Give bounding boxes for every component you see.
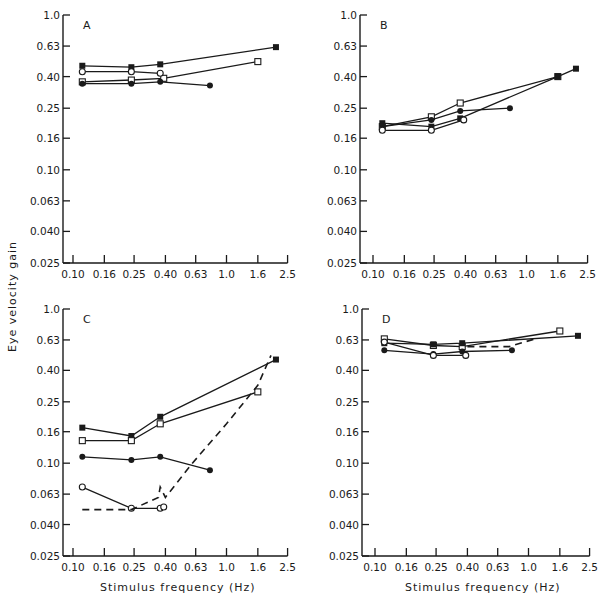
y-tick-label: 0.025 — [30, 257, 60, 269]
marker-filled-square — [79, 425, 85, 431]
panel-a: 1.00.630.400.250.160.100.0630.0400.0250.… — [30, 9, 296, 280]
x-tick-label: 2.5 — [581, 561, 598, 573]
marker-filled-square — [555, 74, 561, 80]
x-tick-label: 0.10 — [361, 268, 384, 280]
x-tick-label: 2.5 — [279, 561, 296, 573]
y-tick-label: 0.40 — [37, 364, 60, 376]
y-tick-label: 0.63 — [37, 40, 60, 52]
x-tick-label: 0.25 — [122, 561, 145, 573]
marker-open-square — [157, 421, 163, 427]
y-tick-label: 0.16 — [336, 426, 360, 438]
marker-open-circle — [157, 70, 163, 76]
series-line — [82, 72, 160, 74]
marker-open-square — [255, 59, 261, 65]
y-tick-label: 0.63 — [37, 334, 60, 346]
marker-open-circle — [430, 352, 436, 358]
marker-filled-square — [157, 414, 163, 420]
x-tick-label: 1.6 — [549, 268, 566, 280]
marker-filled-square — [79, 63, 85, 69]
series-open-circle — [79, 484, 166, 511]
x-tick-label: 0.63 — [486, 561, 509, 573]
marker-filled-square — [575, 333, 581, 339]
x-tick-label: 0.63 — [184, 561, 207, 573]
y-tick-label: 1.0 — [43, 303, 60, 315]
marker-open-square — [557, 328, 563, 334]
x-tick-label: 0.40 — [454, 268, 477, 280]
marker-filled-square — [459, 340, 465, 346]
y-tick-label: 0.25 — [336, 396, 359, 408]
marker-open-circle — [128, 69, 134, 75]
x-tick-label: 0.10 — [61, 561, 84, 573]
x-tick-label: 0.63 — [184, 268, 207, 280]
y-tick-label: 0.10 — [334, 164, 357, 176]
y-tick-label: 1.0 — [43, 9, 60, 21]
series-filled-square-1 — [79, 44, 279, 70]
x-tick-label: 1.0 — [520, 561, 537, 573]
x-tick-label: 0.40 — [154, 268, 177, 280]
series-line — [82, 82, 210, 86]
series-open-square — [379, 74, 561, 130]
y-tick-label: 1.0 — [342, 303, 359, 315]
marker-filled-circle — [79, 81, 85, 87]
series-line — [382, 77, 558, 127]
x-tick-label: 0.25 — [422, 268, 445, 280]
marker-open-circle — [381, 339, 387, 345]
y-tick-label: 0.040 — [30, 225, 60, 237]
marker-open-circle — [463, 352, 469, 358]
x-tick-label: 0.25 — [424, 561, 447, 573]
y-tick-label: 0.16 — [37, 426, 61, 438]
y-tick-label: 0.063 — [329, 488, 359, 500]
x-tick-label: 1.0 — [218, 561, 235, 573]
y-tick-label: 0.10 — [37, 164, 60, 176]
marker-open-circle — [461, 117, 467, 123]
marker-filled-square — [157, 61, 163, 67]
y-tick-label: 0.10 — [336, 457, 359, 469]
series-line — [382, 108, 510, 126]
series-open-circle — [79, 69, 163, 77]
y-tick-label: 0.025 — [329, 550, 359, 562]
y-tick-label: 0.63 — [336, 334, 359, 346]
series-line — [82, 487, 163, 508]
y-tick-label: 0.063 — [327, 195, 357, 207]
marker-open-circle — [161, 504, 167, 510]
y-tick-label: 0.16 — [37, 132, 61, 144]
x-tick-label: 0.10 — [61, 268, 84, 280]
series-open-circle — [381, 339, 468, 358]
x-tick-label: 1.6 — [249, 268, 266, 280]
y-tick-label: 0.063 — [30, 195, 60, 207]
x-tick-label: 1.0 — [218, 268, 235, 280]
y-tick-label: 0.40 — [37, 71, 60, 83]
y-tick-label: 0.040 — [327, 225, 357, 237]
x-tick-label: 0.10 — [363, 561, 386, 573]
x-tick-label: 1.6 — [551, 561, 568, 573]
series-line — [82, 392, 257, 441]
panel-letter: B — [380, 19, 388, 32]
marker-filled-circle — [79, 454, 85, 460]
marker-filled-circle — [157, 79, 163, 85]
marker-open-circle — [379, 127, 385, 133]
x-tick-label: 2.5 — [579, 268, 596, 280]
panel-letter: D — [382, 313, 390, 326]
x-tick-label: 0.16 — [395, 561, 419, 573]
panel-b: 1.00.630.400.250.160.100.0630.0400.0250.… — [327, 9, 596, 280]
y-tick-label: 1.0 — [340, 9, 357, 21]
marker-open-circle — [428, 127, 434, 133]
marker-filled-circle — [428, 117, 434, 123]
panel-d: 1.00.630.400.250.160.100.0630.0400.0250.… — [329, 303, 598, 573]
series-filled-circle — [79, 79, 213, 89]
marker-filled-square — [273, 44, 279, 50]
figure-svg: 1.00.630.400.250.160.100.0630.0400.0250.… — [0, 0, 607, 606]
y-tick-label: 0.63 — [334, 40, 357, 52]
marker-filled-circle — [509, 347, 515, 353]
marker-filled-circle — [207, 83, 213, 89]
marker-filled-circle — [381, 347, 387, 353]
panel-letter: C — [83, 313, 91, 326]
marker-filled-circle — [157, 454, 163, 460]
y-tick-label: 0.40 — [334, 71, 357, 83]
marker-filled-circle — [207, 467, 213, 473]
x-tick-label: 0.40 — [456, 561, 479, 573]
panel-c: 1.00.630.400.250.160.100.0630.0400.0250.… — [30, 303, 296, 573]
marker-filled-square — [379, 120, 385, 126]
y-tick-label: 0.25 — [334, 102, 357, 114]
series-filled-square — [381, 333, 581, 348]
